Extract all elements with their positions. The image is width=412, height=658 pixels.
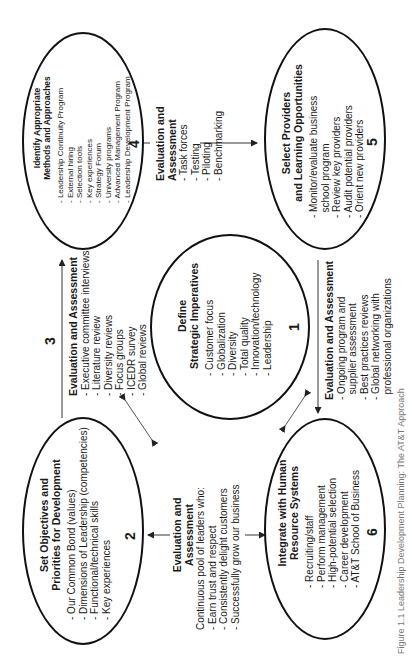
list-item: - Orient new providers <box>354 48 366 218</box>
list-item: - Leadership Development Program <box>123 53 133 203</box>
list-item: - Dimensions of Leadership (competencies… <box>78 430 90 620</box>
node-1-items: - Customer focus - Globalization - Diver… <box>204 256 273 376</box>
figure-caption: Figure 1.1 Leadership Development Planni… <box>396 388 406 654</box>
list-item: - Global reviews <box>137 250 149 396</box>
list-item: - Best practices reviews <box>359 261 371 400</box>
list-item: - Customer focus <box>204 256 216 376</box>
node-1-number: 1 <box>286 323 302 331</box>
list-item: - Selection tools <box>75 53 85 203</box>
node-6-title: Integrate with Human Resource Systems <box>276 438 300 588</box>
node-1-content: Define Strategic Imperatives - Customer … <box>176 256 273 376</box>
node-6-items: - Recruiting/staff - Perform management … <box>304 438 362 588</box>
list-item: professional organizations <box>382 261 394 400</box>
list-item: - Diversity <box>227 256 239 376</box>
list-item: - Leadership Continuity Program <box>56 53 66 203</box>
node-2-number: 2 <box>122 532 138 540</box>
evaluation-2-3: Evaluation and Assessment - Executive co… <box>68 250 149 396</box>
node-4-content: Identify Appropriate Methods and Approac… <box>32 53 132 203</box>
evaluation-5-6: Evaluation and Assessment - Ongoing prog… <box>324 261 393 400</box>
node-6-number: 6 <box>364 528 380 536</box>
list-item: - Review key providers <box>331 48 343 218</box>
list-item: - Earn trust and respect <box>207 440 219 630</box>
list-item: supplier assessment <box>347 261 359 400</box>
list-item: - Innovation/technology <box>250 256 262 376</box>
node-2-items: - Our Common Bond (values) - Dimensions … <box>66 430 112 620</box>
list-item: - Audit potential providers <box>343 48 355 218</box>
list-item: - Testing <box>190 106 202 181</box>
evaluation-6-2: Evaluation and Assessment Continuous poo… <box>172 440 241 630</box>
node-5-title: Select Providers and Learning Opportunit… <box>280 48 304 218</box>
node-6-content: Integrate with Human Resource Systems - … <box>276 438 362 588</box>
list-item: - Global networking with <box>370 261 382 400</box>
list-item: - Key experiences <box>101 430 113 620</box>
list-item: - ICEDR survey <box>126 250 138 396</box>
list-item: - Task forces <box>178 106 190 181</box>
list-item: - University programs <box>104 53 114 203</box>
list-item: - Career development <box>339 438 351 588</box>
list-item: - Piloting <box>201 106 213 181</box>
list-item: - Successfully grow our business <box>230 440 242 630</box>
list-item: - Leadership <box>262 256 274 376</box>
node-4-items: - Leadership Continuity Program - Extern… <box>56 53 132 203</box>
node-4-number: 4 <box>126 140 142 148</box>
list-item: - Our Common Bond (values) <box>66 430 78 620</box>
list-item: - Total quality <box>239 256 251 376</box>
list-item: - High-potential selection <box>327 438 339 588</box>
node-5-items: - Monitor/evaluate business school progr… <box>308 48 366 218</box>
diagram-canvas: Set Objectives and Priorities for Develo… <box>0 0 412 658</box>
list-item: - Functional/technical skills <box>89 430 101 620</box>
node-4-title: Identify Appropriate Methods and Approac… <box>32 53 52 203</box>
list-item: - Consistently delight customers <box>218 440 230 630</box>
list-item: - Recruiting/staff <box>304 438 316 588</box>
list-item: - Literature review <box>91 250 103 396</box>
list-item: - Focus groups <box>114 250 126 396</box>
list-item: - Strategy Forum <box>94 53 104 203</box>
list-item: - Ongoing program and <box>336 261 348 400</box>
evaluation-4-5: Evaluation and Assessment - Task forces … <box>155 106 224 181</box>
list-item: - Globalization <box>216 256 228 376</box>
node-1-title: Define Strategic Imperatives <box>176 256 200 376</box>
list-item: - Executive committee interviews <box>80 250 92 396</box>
node-5-content: Select Providers and Learning Opportunit… <box>280 48 366 218</box>
list-item: - Benchmarking <box>213 106 225 181</box>
node-2-content: Set Objectives and Priorities for Develo… <box>38 430 112 620</box>
list-item: - Advanced Management Program <box>113 53 123 203</box>
step-3-number: 3 <box>42 337 58 345</box>
node-2-title: Set Objectives and Priorities for Develo… <box>38 430 62 620</box>
list-item: - Key experiences <box>85 53 95 203</box>
list-item: - Monitor/evaluate business <box>308 48 320 218</box>
list-item: - Diversity reviews <box>103 250 115 396</box>
list-item: - Perform management <box>316 438 328 588</box>
list-item: - AT&T School of Business <box>350 438 362 588</box>
list-item: - External hiring <box>66 53 76 203</box>
node-5-number: 5 <box>364 138 380 146</box>
list-item: school program <box>320 48 332 218</box>
